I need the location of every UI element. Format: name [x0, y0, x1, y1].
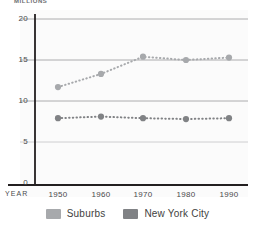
gridlines-group — [20, 10, 248, 197]
y-tick-label: 15 — [6, 55, 28, 64]
data-point — [55, 84, 61, 90]
x-axis-label: YEAR — [5, 190, 28, 197]
x-tick-label: 1950 — [41, 190, 75, 199]
data-point — [226, 115, 232, 121]
data-point — [226, 54, 232, 60]
data-point — [98, 113, 104, 119]
chart-container: MILLIONS 05101520 19501960197019801990 Y… — [0, 0, 255, 231]
data-point — [183, 57, 189, 63]
x-tick-label: 1980 — [169, 190, 203, 199]
legend-swatch-icon — [123, 209, 138, 219]
legend-swatch-icon — [46, 209, 61, 219]
legend-label: New York City — [144, 208, 209, 219]
x-tick-label: 1960 — [84, 190, 118, 199]
legend-label: Suburbs — [67, 208, 106, 219]
data-point — [140, 115, 146, 121]
legend-item[interactable]: New York City — [123, 208, 209, 219]
data-point — [55, 115, 61, 121]
x-tick-label: 1970 — [126, 190, 160, 199]
x-tick-label: 1990 — [212, 190, 246, 199]
y-tick-label: 0 — [6, 178, 28, 187]
data-point — [183, 116, 189, 122]
chart-legend: SuburbsNew York City — [0, 208, 255, 219]
data-point — [98, 71, 104, 77]
y-tick-label: 20 — [6, 14, 28, 23]
data-point — [140, 54, 146, 60]
legend-item[interactable]: Suburbs — [46, 208, 106, 219]
y-tick-label: 5 — [6, 137, 28, 146]
y-tick-label: 10 — [6, 96, 28, 105]
